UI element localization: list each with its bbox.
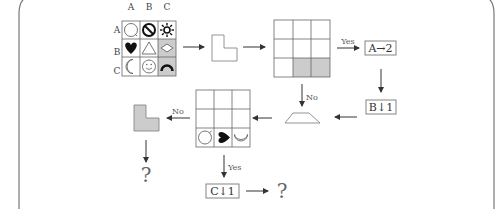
col-label-a: A xyxy=(127,2,135,12)
l-shape-outline xyxy=(212,35,237,61)
outer-frame xyxy=(19,0,494,209)
operation-b-text: B↓1 xyxy=(369,101,393,114)
yes-label: Yes xyxy=(227,163,241,172)
moon-icon xyxy=(126,60,133,74)
heart-icon xyxy=(125,42,137,54)
no-label: No xyxy=(306,93,318,102)
col-label-c: C xyxy=(164,2,171,12)
sun-icon xyxy=(160,23,174,37)
prohibited-icon xyxy=(143,24,155,36)
rotated-circle-icon xyxy=(199,131,212,144)
triangle-icon xyxy=(142,42,156,54)
trapezoid-shape xyxy=(285,113,320,123)
no-label: No xyxy=(172,107,184,116)
yes-label: Yes xyxy=(340,37,354,46)
rotated-moon-icon xyxy=(235,135,248,142)
l-shape-shaded xyxy=(134,105,159,131)
question-mark: ? xyxy=(277,179,288,203)
rotated-heart-icon xyxy=(218,132,230,143)
result-grid xyxy=(196,90,250,147)
source-grid: A B C A B C xyxy=(113,2,176,76)
operation-a-text: A→2 xyxy=(367,42,392,55)
operation-c-text: C↓1 xyxy=(210,185,235,198)
circle-icon xyxy=(125,24,138,37)
flow-diagram: A B C A B C xyxy=(0,0,498,209)
question-mark: ? xyxy=(141,163,152,187)
col-label-b: B xyxy=(146,2,153,12)
row-label-a: A xyxy=(113,25,121,35)
row-label-c: C xyxy=(114,66,121,76)
shaded-cell xyxy=(293,58,330,77)
row-label-b: B xyxy=(114,47,121,57)
smiley-icon xyxy=(143,60,156,73)
target-grid xyxy=(274,20,330,77)
